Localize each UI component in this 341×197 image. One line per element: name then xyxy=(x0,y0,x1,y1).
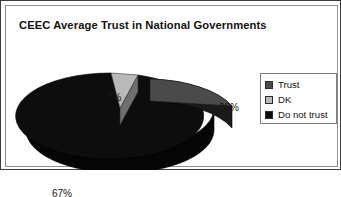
chart-outer-frame: CEEC Average Trust in National Governmen… xyxy=(0,0,341,170)
legend-label-trust: Trust xyxy=(278,80,300,90)
pie-plot-area: 7% 26% 67% xyxy=(14,40,254,170)
legend-item-dk[interactable]: DK xyxy=(265,93,336,107)
legend-label-do-not-trust: Do not trust xyxy=(278,110,328,120)
legend-swatch-dk xyxy=(265,96,273,104)
legend-item-trust[interactable]: Trust xyxy=(265,78,336,92)
legend-item-do-not-trust[interactable]: Do not trust xyxy=(265,108,336,122)
legend-swatch-do-not-trust xyxy=(265,111,273,119)
chart-legend: Trust DK Do not trust xyxy=(260,73,337,124)
pie-data-label-dk: 7% xyxy=(107,92,121,103)
pie-data-label-trust: 26% xyxy=(219,102,239,113)
pie-chart-3d xyxy=(14,40,254,170)
chart-title: CEEC Average Trust in National Governmen… xyxy=(19,19,267,31)
legend-label-dk: DK xyxy=(278,95,291,105)
chart-inner-frame: CEEC Average Trust in National Governmen… xyxy=(5,5,338,167)
legend-swatch-trust xyxy=(265,81,273,89)
